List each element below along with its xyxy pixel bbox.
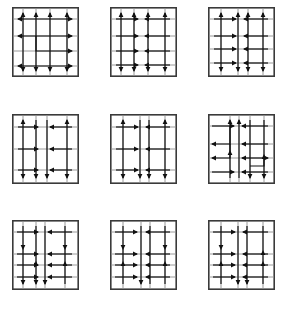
panel-3-canvas [208, 7, 275, 77]
panel-6-canvas [208, 114, 275, 184]
panel-1-canvas [12, 7, 79, 77]
panel-9 [208, 220, 275, 290]
panel-4-canvas [12, 114, 79, 184]
panel-5-canvas [110, 114, 177, 184]
panel-8-canvas [110, 220, 177, 290]
panel-7-canvas [12, 220, 79, 290]
panel-2 [110, 7, 177, 77]
panel-3 [208, 7, 275, 77]
panel-frame [209, 8, 274, 76]
panel-4 [12, 114, 79, 184]
panel-6 [208, 114, 275, 184]
panel-7 [12, 220, 79, 290]
panel-2-canvas [110, 7, 177, 77]
panel-1 [12, 7, 79, 77]
panel-9-canvas [208, 220, 275, 290]
panel-8 [110, 220, 177, 290]
figure-grid [0, 0, 290, 325]
panel-5 [110, 114, 177, 184]
panel-frame [111, 221, 176, 289]
